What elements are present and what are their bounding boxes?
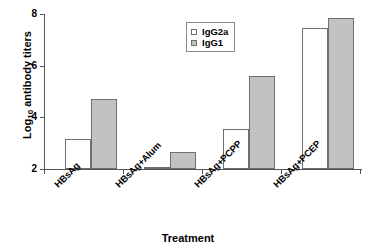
y-tick-mark-8 bbox=[40, 14, 44, 15]
legend-item-igg2a: IgG2a bbox=[191, 26, 228, 37]
x-tick-mark-4 bbox=[360, 170, 361, 174]
chart-legend: IgG2a IgG1 bbox=[186, 22, 235, 52]
bar-hbsag-pcep-igg1 bbox=[328, 18, 354, 169]
y-tick-label-6: 6 bbox=[20, 61, 37, 71]
y-tick-label-4: 4 bbox=[20, 112, 37, 122]
legend-swatch-igg1-icon bbox=[191, 40, 197, 46]
legend-label-igg2a: IgG2a bbox=[202, 26, 228, 37]
x-tick-mark-0 bbox=[44, 170, 45, 174]
y-axis-title: Log10 antibody titers bbox=[21, 5, 35, 165]
y-tick-label-2: 2 bbox=[20, 164, 37, 174]
y-axis-line bbox=[44, 14, 45, 170]
y-tick-mark-6 bbox=[40, 66, 44, 67]
bar-hbsag-alum-igg1 bbox=[170, 152, 196, 169]
bar-hbsag-alum-igg2a bbox=[144, 167, 170, 169]
bar-hbsag-pcpp-igg1 bbox=[249, 76, 275, 169]
legend-swatch-igg2a-icon bbox=[191, 29, 197, 35]
chart-figure: Log10 antibody titers 8 6 4 2 HBsA bbox=[0, 0, 376, 252]
bar-hbsag-igg1 bbox=[91, 99, 117, 169]
legend-label-igg1: IgG1 bbox=[202, 37, 223, 48]
x-axis-title: Treatment bbox=[0, 232, 376, 244]
y-tick-label-8: 8 bbox=[20, 9, 37, 19]
legend-item-igg1: IgG1 bbox=[191, 37, 228, 48]
y-tick-mark-4 bbox=[40, 117, 44, 118]
